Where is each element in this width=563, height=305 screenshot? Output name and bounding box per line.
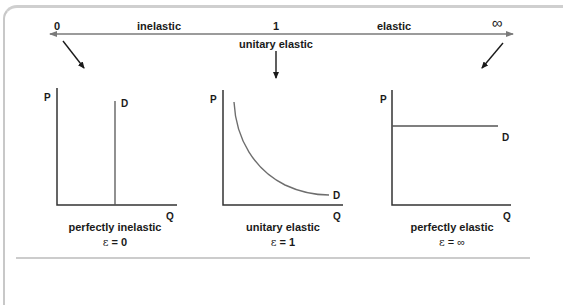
panel2-epsilon: ε = 1 [246, 236, 320, 249]
axes [223, 90, 343, 205]
panel3-epsilon: ε = ∞ [410, 236, 493, 249]
scale-infinity-label: ∞ [492, 17, 503, 29]
scale-elastic-label: elastic [377, 20, 411, 32]
panel1-q-axis-label: Q [166, 211, 174, 223]
panel2-p-axis-label: P [210, 94, 217, 106]
panel3-epsilon-value: = ∞ [448, 236, 465, 248]
panel1-epsilon: ε = 0 [69, 236, 162, 249]
panel3-caption: perfectly elastic ε = ∞ [410, 221, 493, 249]
panel-unitary-elastic-plot [223, 90, 343, 205]
panel3-p-axis-label: P [380, 94, 387, 106]
panel-perfectly-elastic-plot [392, 90, 511, 205]
panel1-epsilon-value: = 0 [112, 236, 128, 248]
pointer-arrow-right [482, 43, 503, 68]
panel3-d-label: D [502, 132, 509, 144]
scale-inelastic-label: inelastic [137, 20, 181, 32]
panel1-caption-name: perfectly inelastic [69, 221, 162, 234]
epsilon-symbol: ε [439, 236, 445, 249]
epsilon-symbol: ε [271, 236, 277, 249]
panel2-d-label: D [333, 190, 340, 202]
panel1-d-label: D [121, 98, 128, 110]
panel1-caption: perfectly inelastic ε = 0 [69, 221, 162, 249]
panel-perfectly-inelastic-plot [57, 88, 177, 205]
pointer-arrow-left [63, 41, 84, 68]
panel1-p-axis-label: P [44, 92, 51, 104]
panel2-epsilon-value: = 1 [280, 236, 296, 248]
scale-zero-label: 0 [54, 20, 60, 32]
panel3-q-axis-label: Q [503, 211, 511, 223]
panel3-caption-name: perfectly elastic [410, 221, 493, 234]
scale-one-label: 1 [273, 20, 279, 32]
panel2-caption-name: unitary elastic [246, 221, 320, 234]
epsilon-symbol: ε [103, 236, 109, 249]
axes [392, 90, 511, 205]
scale-unitary-label: unitary elastic [239, 38, 313, 50]
demand-curve-hyperbola [234, 102, 329, 195]
panel2-q-axis-label: Q [333, 211, 341, 223]
axes [57, 88, 177, 205]
panel2-caption: unitary elastic ε = 1 [246, 221, 320, 249]
